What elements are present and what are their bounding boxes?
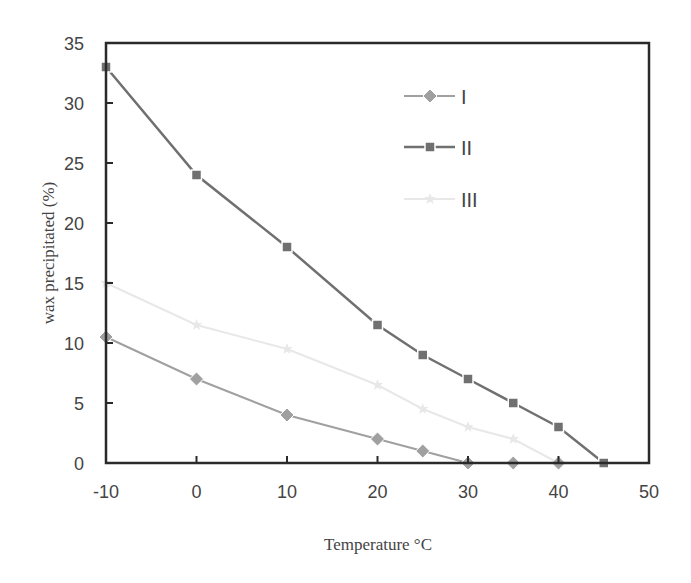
diamond-marker [371, 432, 385, 446]
series-II [101, 62, 609, 468]
x-tick-label: 30 [458, 482, 478, 502]
diamond-marker [190, 372, 204, 386]
legend-label: II [461, 137, 472, 159]
star-marker [372, 379, 383, 390]
y-tick-label: 15 [64, 274, 84, 294]
x-axis-title: Temperature °C [324, 535, 432, 554]
x-tick-label: -10 [93, 482, 119, 502]
x-tick-label: 50 [639, 482, 659, 502]
y-tick-label: 5 [74, 394, 84, 414]
series-III [100, 277, 564, 468]
square-marker [508, 398, 518, 408]
y-axis-title: wax precipitated (%) [39, 182, 58, 325]
square-marker [373, 320, 383, 330]
square-marker [418, 350, 428, 360]
square-marker [554, 422, 564, 432]
legend-label: III [461, 189, 478, 211]
y-tick-label: 10 [64, 334, 84, 354]
star-marker [508, 433, 520, 444]
y-tick-label: 20 [64, 214, 84, 234]
x-tick-label: 0 [191, 482, 201, 502]
star-marker [424, 193, 435, 204]
legend-item-II: II [404, 137, 472, 159]
series-layer [99, 62, 609, 470]
series-line [106, 67, 604, 463]
series-line [106, 337, 559, 463]
star-marker [417, 403, 429, 414]
y-tick-label: 30 [64, 94, 84, 114]
legend-item-III: III [404, 189, 478, 211]
square-marker [192, 170, 202, 180]
x-tick-label: 10 [277, 482, 297, 502]
x-tick-label: 20 [367, 482, 387, 502]
legend-item-I: I [404, 86, 467, 108]
star-marker [191, 319, 202, 330]
diamond-marker [423, 89, 437, 103]
x-tick-label: 40 [548, 482, 568, 502]
square-marker [463, 374, 473, 384]
diamond-marker [416, 444, 430, 458]
line-chart: 05101520253035-1001020304050 IIIIII Temp… [0, 0, 691, 583]
axis-ticks: 05101520253035-1001020304050 [64, 34, 659, 502]
square-marker [282, 242, 292, 252]
square-marker [425, 142, 435, 152]
plot-frame [106, 43, 649, 463]
series-line [106, 283, 559, 463]
y-tick-label: 0 [74, 454, 84, 474]
chart: 05101520253035-1001020304050 IIIIII Temp… [0, 0, 691, 583]
legend-label: I [461, 86, 467, 108]
diamond-marker [280, 408, 294, 422]
star-marker [281, 343, 292, 354]
y-tick-label: 35 [64, 34, 84, 54]
legend: IIIIII [404, 86, 478, 211]
star-marker [462, 421, 473, 432]
y-tick-label: 25 [64, 154, 84, 174]
series-I [99, 330, 566, 470]
